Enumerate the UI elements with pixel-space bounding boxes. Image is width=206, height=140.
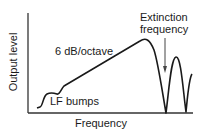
x-axis-label: Frequency [75,117,127,129]
extinction-annotation-line2: frequency [140,23,188,35]
extinction-arrow-head [163,66,167,73]
lf-bumps-annotation: LF bumps [50,95,99,107]
extinction-annotation-line1: Extinction [140,11,188,23]
slope-annotation: 6 dB/octave [55,45,113,57]
y-axis-label: Output level [7,27,19,97]
